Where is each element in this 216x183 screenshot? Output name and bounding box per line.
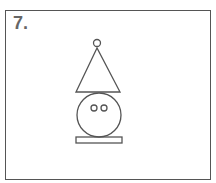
large-circle-icon <box>77 93 121 137</box>
right-eye-icon <box>101 105 107 111</box>
small-circle-icon <box>94 40 101 47</box>
left-eye-icon <box>91 105 97 111</box>
base-rectangle-icon <box>76 137 122 143</box>
figure-drawing <box>0 0 216 183</box>
triangle-icon <box>76 48 120 92</box>
